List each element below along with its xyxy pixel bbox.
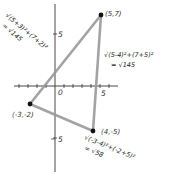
triangle (30, 15, 101, 131)
x-tick-5-label: 5 (101, 89, 106, 98)
point-label-neg3-neg2: (-3,-2) (12, 111, 34, 119)
svg-text:√(5-4)²+(7+5)²: √(5-4)²+(7+5)² (104, 51, 154, 59)
side-bottom (30, 104, 93, 131)
svg-text:= √145: = √145 (111, 61, 135, 69)
point-label-4-neg5: (4,-5) (101, 128, 120, 136)
point-label-5-7: (5,7) (105, 10, 122, 18)
left-side-formula: √(5+3)²+(7+2)² = √145 (0, 11, 49, 59)
point-4-neg5 (91, 129, 96, 134)
y-tick-neg5-label: 5 (58, 135, 63, 144)
point-neg3-neg2 (28, 102, 33, 107)
side-right (93, 15, 101, 131)
y-tick-5-label: 5 (58, 30, 63, 39)
origin-label: 0 (58, 88, 63, 97)
bottom-side-formula: √(-3-4)²+(-2+5)² = √58 (80, 133, 137, 170)
point-5-7 (99, 13, 104, 18)
side-left (30, 15, 101, 104)
triangle-diagram: 0 5 5 5 (5,7) (-3,-2) (4,-5) √(5+3)²+(7+… (0, 0, 174, 177)
right-side-formula: √(5-4)²+(7+5)² = √145 (104, 51, 154, 69)
